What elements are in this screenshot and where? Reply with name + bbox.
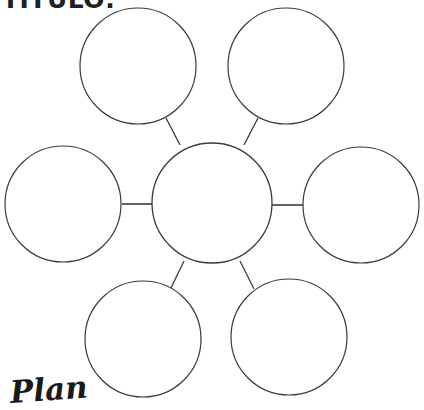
- bubble-map-diagram: [0, 0, 424, 410]
- worksheet-page: TÍTULO: Plan: [0, 0, 424, 410]
- connector-center-to-top-right: [244, 118, 258, 145]
- bubble-bottom-left[interactable]: [85, 281, 201, 397]
- connector-center-to-top-left: [166, 118, 180, 145]
- bubble-bottom-right[interactable]: [231, 279, 347, 395]
- bubble-right[interactable]: [303, 147, 419, 263]
- connector-center-to-bottom-left: [170, 261, 184, 290]
- connector-center-to-bottom-right: [240, 261, 254, 289]
- bubble-left[interactable]: [5, 146, 121, 262]
- bubble-center[interactable]: [152, 143, 272, 263]
- bubble-top-right[interactable]: [228, 8, 344, 124]
- bubble-top-left[interactable]: [80, 8, 196, 124]
- brand-watermark: Plan: [9, 372, 89, 408]
